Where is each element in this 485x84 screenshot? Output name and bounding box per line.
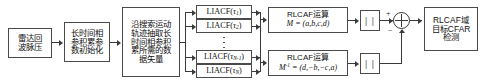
block-liacf-1-label: LIACF(τ1) — [207, 8, 242, 17]
block-liacf-n: LIACF(τN) — [196, 64, 252, 78]
fanin-bus — [260, 12, 261, 72]
summing-junction-minus-sign: − — [388, 27, 393, 35]
block-data-extract: 沿搜索运动 轨迹抽取长 时间相参积 累所需的数 据矢量 — [122, 7, 180, 77]
block-rlcaf-forward: RLCAF运算 M = (a,b,c,d) — [268, 7, 348, 33]
block-liacf-2-label: LIACF(τ2) — [207, 22, 242, 31]
block-rlcaf-inverse-label: RLCAF运算 — [287, 54, 329, 62]
block-rlcaf-inverse: RLCAF运算 M-1 = (d,−b,−c,a) — [268, 50, 348, 76]
fanout-stub — [180, 42, 186, 43]
summing-junction-plus-sign: + — [386, 10, 391, 18]
block-liacf-2: LIACF(τ2) — [196, 19, 252, 33]
fanin-to-rlcaf-bottom-arrow — [263, 60, 267, 66]
block-abs-top-label: | | — [365, 15, 375, 26]
connector-abs-bottom-right — [380, 63, 402, 64]
block-abs-bottom: | | — [360, 53, 380, 74]
connector-rlcaf-bottom-to-abs-arrow — [355, 61, 359, 67]
block-data-extract-line5: 据矢量 — [139, 55, 163, 64]
block-liacf-n-minus-1: LIACF(τN-1) — [196, 50, 252, 64]
summing-junction — [393, 12, 410, 29]
connector-1-arrow — [59, 40, 63, 46]
block-rlcaf-forward-matrix: M = (a,b,c,d) — [287, 20, 330, 28]
block-liacf-n-label: LIACF(τN) — [206, 67, 242, 76]
block-abs-top: | | — [360, 10, 380, 31]
block-liacf-1: LIACF(τ1) — [196, 5, 252, 19]
block-param-init-line3: 数初始化 — [71, 46, 103, 55]
block-cfar-detect: RLCAF域 目标CFAR 检测 — [424, 7, 478, 51]
connector-abs-bottom-up-arrow — [399, 29, 405, 33]
block-abs-bottom-label: | | — [365, 58, 375, 69]
connector-sum-to-cfar-arrow — [418, 18, 422, 24]
block-cfar-detect-line3: 检测 — [443, 33, 459, 42]
block-rlcaf-inverse-matrix: M-1 = (d,−b,−c,a) — [279, 63, 337, 72]
block-radar-echo-line2: 波脉压 — [18, 43, 42, 52]
block-liacf-n-minus-1-label: LIACF(τN-1) — [204, 53, 244, 62]
block-param-init: 长时间相 参积累参 数初始化 — [64, 22, 110, 62]
connector-rlcaf-top-to-abs-arrow — [355, 18, 359, 24]
diagram-canvas: 雷达回 波脉压 长时间相 参积累参 数初始化 沿搜索运动 轨迹抽取长 时间相参积… — [0, 0, 485, 84]
connector-2-arrow — [117, 40, 121, 46]
liacf-ellipsis — [223, 37, 225, 48]
fanin-to-rlcaf-top-arrow — [263, 17, 267, 23]
block-radar-echo: 雷达回 波脉压 — [8, 28, 52, 58]
connector-abs-bottom-up — [401, 31, 402, 63]
